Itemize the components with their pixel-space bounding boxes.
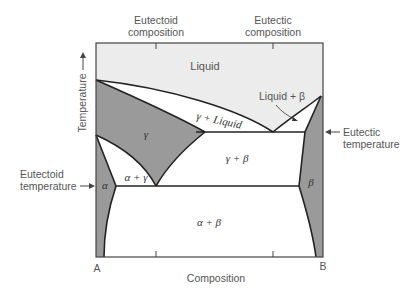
gamma-beta-region-label: γ + β <box>226 152 249 164</box>
phase-diagram: Eutectoid composition Eutectic compositi… <box>0 0 417 298</box>
gamma-region-label: γ <box>144 128 149 140</box>
composition-axis-label: Composition <box>187 272 246 284</box>
liquid-region-label: Liquid <box>190 60 219 72</box>
eutectoid-temperature-label-2: temperature <box>20 180 77 192</box>
eutectic-composition-label-1: Eutectic <box>254 14 291 26</box>
eutectic-temperature-label-1: Eutectic <box>343 126 380 138</box>
eutectoid-temperature-label-1: Eutectoid <box>20 168 64 180</box>
eutectic-temperature-arrow-icon <box>325 129 340 135</box>
alpha-gamma-region-label: α + γ <box>124 171 148 183</box>
eutectoid-temperature-arrow-icon <box>80 183 95 189</box>
alpha-region-label: α <box>102 179 108 191</box>
component-a-label: A <box>93 262 100 274</box>
eutectic-temperature-label-2: temperature <box>343 138 400 150</box>
beta-region-label: β <box>307 176 314 188</box>
temperature-axis-label: Temperature <box>76 73 88 132</box>
eutectic-composition-label-2: composition <box>245 26 301 38</box>
eutectoid-composition-label-2: composition <box>128 26 184 38</box>
temperature-arrow-icon <box>80 52 86 70</box>
liquid-beta-region-label: Liquid + β <box>259 90 305 102</box>
component-b-label: B <box>319 260 326 272</box>
alpha-beta-region-label: α + β <box>197 216 222 228</box>
eutectoid-composition-label-1: Eutectoid <box>134 14 178 26</box>
